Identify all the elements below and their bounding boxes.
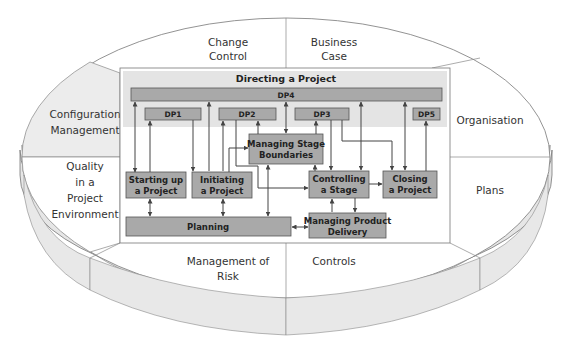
starting-up-label: Starting upa Project (129, 175, 183, 196)
initiating-label: Initiatinga Project (200, 175, 244, 196)
dp4-label: DP4 (278, 91, 295, 100)
dp5-label: DP5 (418, 110, 435, 119)
segment-organisation: Organisation (456, 114, 523, 126)
closing-label: Closinga Project (389, 174, 432, 195)
segment-controls: Controls (312, 255, 355, 267)
prince2-process-model-diagram: ChangeControl BusinessCase Configuration… (0, 0, 571, 341)
dp3-label: DP3 (314, 110, 331, 119)
planning-label: Planning (187, 222, 229, 232)
dp2-label: DP2 (239, 110, 256, 119)
dp1-label: DP1 (165, 110, 182, 119)
segment-plans: Plans (476, 184, 504, 196)
directing-title: Directing a Project (236, 73, 337, 84)
